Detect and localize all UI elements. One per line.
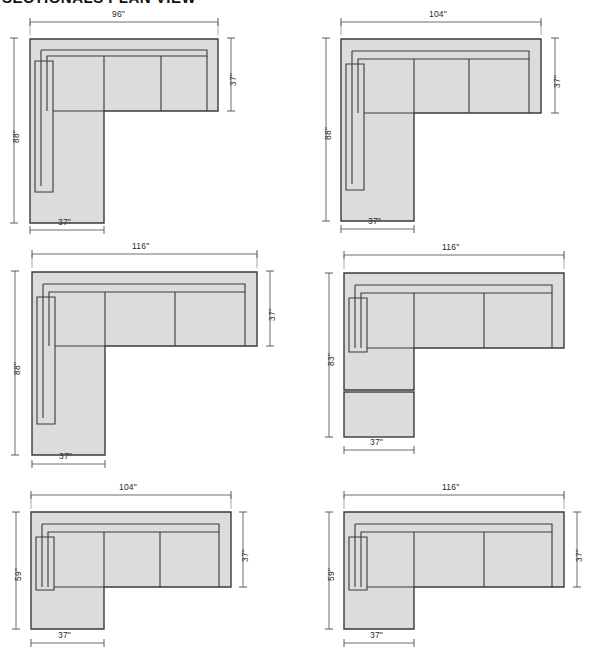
plan-5-drawing xyxy=(0,480,295,654)
plan-2-drawing xyxy=(296,8,591,235)
label-sofa-depth-3: 37" xyxy=(267,308,277,321)
label-chaise-width-1: 37" xyxy=(58,217,71,227)
label-overall-width-4: 116" xyxy=(442,242,459,252)
plan-view-6: 116" 59" 37" 37" xyxy=(296,480,591,654)
dimension-chaise-width-4 xyxy=(344,446,414,454)
label-chaise-width-6: 37" xyxy=(370,630,383,640)
sectional-body-1 xyxy=(30,39,218,223)
label-overall-width-3: 116" xyxy=(132,241,149,251)
page-title: SECTIONALS PLAN VIEW xyxy=(2,0,196,6)
label-overall-depth-4: 83" xyxy=(326,353,336,366)
sectional-body-6 xyxy=(344,512,564,629)
sectional-body-3 xyxy=(32,272,257,455)
label-overall-depth-2: 88" xyxy=(323,127,333,140)
dimension-chaise-width-6 xyxy=(344,639,414,647)
plan-1-drawing xyxy=(0,8,295,235)
plan-view-5: 104" 59" 37" 37" xyxy=(0,480,295,654)
dimension-overall-width-6 xyxy=(344,491,564,509)
dimension-chaise-width-5 xyxy=(31,639,104,647)
dimension-chaise-width-3 xyxy=(32,460,105,468)
label-overall-depth-5: 59" xyxy=(13,568,23,581)
label-overall-width-5: 104" xyxy=(119,482,137,492)
label-overall-width-2: 104" xyxy=(429,9,447,19)
label-chaise-width-3: 37" xyxy=(59,451,72,461)
label-overall-depth-6: 59" xyxy=(326,568,336,581)
dimension-overall-width-3 xyxy=(32,250,257,268)
plan-view-2: 104" 88" 37" 37" xyxy=(296,8,591,235)
label-sofa-depth-1: 37" xyxy=(228,73,238,86)
plan-4-drawing xyxy=(296,240,591,478)
sectional-body-4 xyxy=(344,273,564,390)
sectional-body-2 xyxy=(341,39,541,221)
dimension-overall-width-4 xyxy=(344,251,564,269)
label-chaise-width-5: 37" xyxy=(58,630,71,640)
sectional-body-5 xyxy=(31,512,231,629)
label-sofa-depth-5: 37" xyxy=(240,549,250,562)
dimension-overall-width-1 xyxy=(30,18,218,35)
plan-view-3: 116" 88" 37" 37" xyxy=(0,240,295,478)
dimension-chaise-width-2 xyxy=(341,225,414,233)
plan-6-drawing xyxy=(296,480,591,654)
dimension-overall-width-5 xyxy=(31,491,231,509)
drawing-sheet: SECTIONALS PLAN VIEW xyxy=(0,0,591,654)
label-overall-width-6: 116" xyxy=(442,482,459,492)
ottoman-4 xyxy=(344,392,414,437)
label-overall-width-1: 96" xyxy=(112,9,125,19)
label-chaise-width-2: 37" xyxy=(368,216,381,226)
dimension-chaise-width-1 xyxy=(30,226,104,234)
label-overall-depth-3: 88" xyxy=(12,362,22,375)
plan-3-drawing xyxy=(0,240,295,478)
label-sofa-depth-6: 37" xyxy=(574,549,584,562)
label-sofa-depth-2: 37" xyxy=(552,75,562,88)
label-overall-depth-1: 88" xyxy=(11,130,21,143)
plan-view-4: 116" 83" 37" xyxy=(296,240,591,478)
plan-view-1: 96" 88" 37" 37" xyxy=(0,8,295,235)
dimension-overall-width-2 xyxy=(341,18,541,35)
label-chaise-width-4: 37" xyxy=(370,437,383,447)
